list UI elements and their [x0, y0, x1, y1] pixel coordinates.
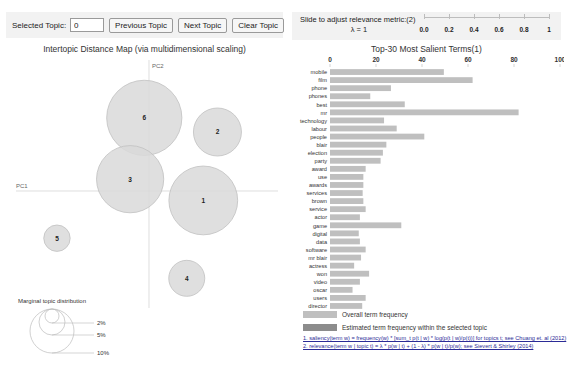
topic-number-6[interactable]: 6	[142, 114, 146, 121]
bar-row[interactable]: award	[312, 166, 366, 172]
bar-overall-technology[interactable]	[330, 118, 384, 124]
bar-overall-phone[interactable]	[330, 85, 391, 91]
bar-overall-digital[interactable]	[330, 230, 359, 236]
bar-row[interactable]: digital	[312, 230, 358, 236]
topic-number-2[interactable]: 2	[216, 128, 220, 135]
bar-term-label[interactable]: won	[316, 271, 327, 277]
bar-row[interactable]: election	[308, 150, 383, 156]
bar-term-label[interactable]: data	[316, 239, 328, 245]
bar-term-label[interactable]: users	[313, 295, 327, 301]
bar-row[interactable]: actress	[309, 263, 354, 269]
bar-overall-oscar[interactable]	[330, 287, 353, 293]
selected-topic-input[interactable]	[70, 18, 104, 32]
bar-row[interactable]: phone	[311, 85, 391, 91]
bar-term-label[interactable]: phone	[311, 85, 327, 91]
bar-row[interactable]: labour	[311, 126, 396, 132]
bar-term-label[interactable]: people	[310, 134, 327, 140]
bar-row[interactable]: mobile	[311, 69, 444, 75]
bar-overall-director[interactable]	[330, 303, 362, 309]
bar-term-label[interactable]: labour	[311, 126, 327, 132]
bar-row[interactable]: use	[318, 174, 363, 180]
bar-term-label[interactable]: video	[314, 279, 327, 285]
bar-term-label[interactable]: technology	[300, 118, 327, 124]
bar-overall-game[interactable]	[330, 222, 401, 228]
bar-row[interactable]: people	[310, 134, 424, 140]
next-topic-button[interactable]: Next Topic	[178, 18, 227, 33]
bar-row[interactable]: video	[314, 279, 360, 285]
clear-topic-button[interactable]: Clear Topic	[232, 18, 284, 33]
bar-row[interactable]: services	[306, 190, 362, 196]
bar-overall-video[interactable]	[330, 279, 360, 285]
bar-term-label[interactable]: software	[306, 247, 327, 253]
bar-overall-film[interactable]	[330, 77, 473, 83]
bar-term-label[interactable]: service	[309, 206, 327, 212]
bar-overall-party[interactable]	[330, 158, 381, 164]
bar-term-label[interactable]: use	[318, 174, 327, 180]
bar-term-label[interactable]: oscar	[313, 287, 327, 293]
bar-overall-actor[interactable]	[330, 214, 360, 220]
bar-overall-services[interactable]	[330, 190, 363, 196]
bar-term-label[interactable]: mobile	[311, 69, 327, 75]
bar-overall-people[interactable]	[330, 134, 424, 140]
bar-row[interactable]: oscar	[313, 287, 352, 293]
bar-overall-award[interactable]	[330, 166, 366, 172]
salient-terms-canvas[interactable]: 020406080100mobilefilmphonephonesbestmrt…	[292, 54, 564, 312]
topic-bubble-2[interactable]: 2	[193, 108, 241, 156]
topic-number-5[interactable]: 5	[55, 235, 59, 242]
bar-term-label[interactable]: actor	[315, 214, 328, 220]
topic-bubble-4[interactable]: 4	[169, 260, 205, 296]
bar-row[interactable]: mr blair	[308, 255, 361, 261]
bar-term-label[interactable]: brown	[312, 198, 327, 204]
bar-row[interactable]: technology	[300, 118, 384, 124]
bar-term-label[interactable]: mr blair	[308, 255, 327, 261]
bar-overall-election[interactable]	[330, 150, 383, 156]
bar-overall-labour[interactable]	[330, 126, 397, 132]
bar-overall-best[interactable]	[330, 101, 405, 107]
bar-overall-mr[interactable]	[330, 109, 519, 115]
bar-row[interactable]: game	[313, 222, 401, 228]
relevance-slider-track[interactable]	[424, 17, 550, 18]
topic-number-3[interactable]: 3	[128, 176, 132, 183]
salient-terms-barchart[interactable]: 020406080100mobilefilmphonephonesbestmrt…	[292, 54, 564, 312]
bar-overall-service[interactable]	[330, 206, 366, 212]
bar-overall-users[interactable]	[330, 295, 366, 301]
footnote-saliency[interactable]: 1. saliency(term w) = frequency(w) * [su…	[303, 334, 565, 342]
bar-row[interactable]: best	[316, 101, 404, 107]
topic-bubble-5[interactable]: 5	[44, 225, 70, 251]
bar-term-label[interactable]: blair	[316, 142, 327, 148]
bar-term-label[interactable]: film	[318, 77, 327, 83]
topic-bubble-1[interactable]: 1	[169, 166, 238, 235]
footnote-relevance[interactable]: 2. relevance(term w | topic t) = λ * p(w…	[303, 342, 565, 350]
intertopic-map-canvas[interactable]: PC1PC2623154Marginal topic distribution2…	[6, 56, 284, 366]
bar-term-label[interactable]: phones	[309, 93, 328, 99]
bar-overall-use[interactable]	[330, 174, 363, 180]
bar-row[interactable]: actor	[315, 214, 360, 220]
bar-row[interactable]: service	[309, 206, 365, 212]
bar-row[interactable]: awards	[309, 182, 363, 188]
bar-row[interactable]: won	[316, 271, 369, 277]
bar-row[interactable]: party	[315, 158, 381, 164]
bar-term-label[interactable]: awards	[309, 182, 327, 188]
bar-overall-mr-blair[interactable]	[330, 255, 361, 261]
bar-overall-mobile[interactable]	[330, 69, 444, 75]
topic-bubble-6[interactable]: 6	[107, 80, 182, 155]
bar-term-label[interactable]: digital	[312, 231, 327, 237]
bar-term-label[interactable]: best	[316, 102, 327, 108]
intertopic-distance-map[interactable]: PC1PC2623154Marginal topic distribution2…	[6, 56, 284, 366]
bar-row[interactable]: phones	[309, 93, 371, 99]
bar-term-label[interactable]: mr	[320, 110, 327, 116]
bar-term-label[interactable]: services	[306, 190, 327, 196]
bar-overall-brown[interactable]	[330, 198, 363, 204]
topic-bubble-3[interactable]: 3	[97, 146, 164, 213]
bar-row[interactable]: data	[316, 239, 360, 245]
bar-overall-awards[interactable]	[330, 182, 363, 188]
bar-row[interactable]: film	[318, 77, 472, 83]
topic-number-4[interactable]: 4	[185, 275, 189, 282]
bar-overall-software[interactable]	[330, 247, 366, 253]
bar-term-label[interactable]: election	[308, 150, 327, 156]
bar-overall-blair[interactable]	[330, 142, 386, 148]
bar-overall-data[interactable]	[330, 239, 360, 245]
bar-term-label[interactable]: party	[315, 158, 328, 164]
bar-row[interactable]: mr	[320, 109, 518, 115]
bar-row[interactable]: software	[306, 247, 366, 253]
